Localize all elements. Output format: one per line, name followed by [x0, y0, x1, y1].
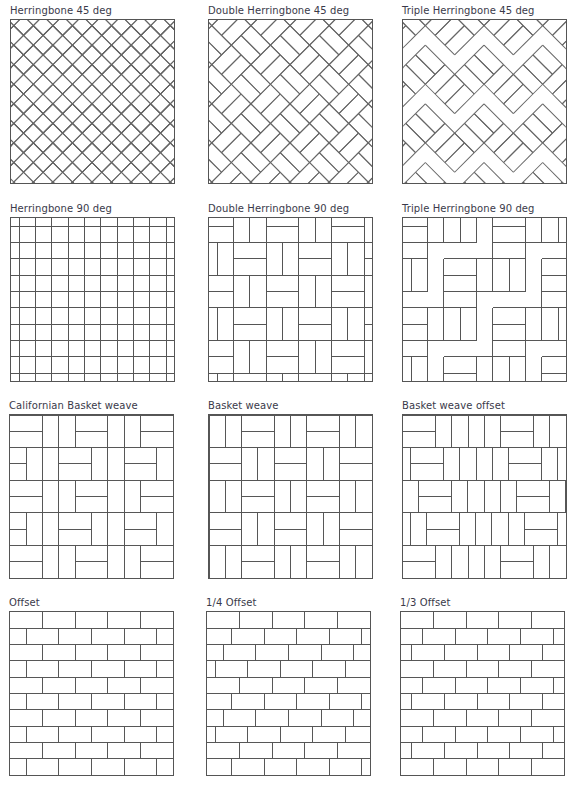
pattern-diagram-double-herringbone-90 [208, 217, 373, 382]
panel-title: 1/4 Offset [206, 597, 256, 608]
panel-title: 1/3 Offset [400, 597, 450, 608]
panel-title: Basket weave [208, 400, 279, 411]
pattern-diagram-offset [9, 611, 174, 776]
pattern-diagram-basket-weave-offset [402, 414, 567, 579]
pattern-diagram-double-herringbone-45 [208, 19, 373, 184]
panel-title: Herringbone 45 deg [10, 5, 112, 16]
pattern-diagram-californian-basket-weave [9, 414, 174, 579]
panel-title: Triple Herringbone 45 deg [402, 5, 535, 16]
pattern-diagram-herringbone-90 [10, 217, 175, 382]
panel-title: Basket weave offset [402, 400, 505, 411]
pattern-diagram-basket-weave [208, 414, 373, 579]
pattern-diagram-herringbone-45 [10, 19, 175, 184]
panel-title: Herringbone 90 deg [10, 203, 112, 214]
panel-title: Double Herringbone 90 deg [208, 203, 349, 214]
panel-title: Triple Herringbone 90 deg [402, 203, 535, 214]
pattern-diagram-triple-herringbone-90 [402, 217, 567, 382]
pattern-diagram-triple-herringbone-45 [402, 19, 567, 184]
pattern-diagram-quarter-offset [206, 611, 371, 776]
panel-title: Californian Basket weave [9, 400, 138, 411]
panel-title: Double Herringbone 45 deg [208, 5, 349, 16]
pattern-diagram-third-offset [400, 611, 565, 776]
panel-title: Offset [9, 597, 40, 608]
